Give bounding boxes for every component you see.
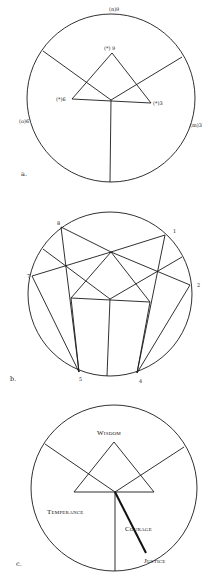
diagram-b-inner-triangle bbox=[71, 252, 150, 302]
diagram-a-spoke-bottom bbox=[110, 100, 111, 182]
point-label-7: 7 bbox=[27, 273, 30, 279]
diagram-c-justice-line bbox=[115, 492, 146, 553]
diagram-a-triangle bbox=[72, 53, 151, 103]
diagram-c: Wisdom Temperance Courage Justice c. bbox=[16, 405, 197, 571]
caption-b: b. bbox=[10, 375, 16, 383]
diagram-b-line-apex-2 bbox=[111, 252, 190, 285]
figure-canvas: (n)9 (o)6 (m)3 (*) 9 (*)6 (*)3 a. 8 1 7 … bbox=[0, 0, 208, 584]
point-label-8: 8 bbox=[57, 220, 60, 226]
diagram-b-line-7-5 bbox=[32, 276, 79, 372]
label-right-3: (*)3 bbox=[153, 100, 163, 106]
diagram-b-line-1-apex bbox=[111, 235, 165, 252]
diagram-b-line-apex-7 bbox=[32, 252, 111, 276]
diagram-b-spoke-right bbox=[110, 257, 182, 299]
virtue-temperance: Temperance bbox=[47, 508, 84, 516]
diagram-b: 8 1 7 2 5 4 b. bbox=[10, 212, 200, 384]
label-left-6: (*)6 bbox=[56, 96, 66, 102]
label-n9: (n)9 bbox=[109, 6, 119, 12]
label-o6: (o)6 bbox=[19, 118, 29, 124]
label-m3: (m)3 bbox=[190, 122, 202, 128]
diagram-b-spoke-bottom bbox=[107, 299, 110, 376]
diagram-b-line-8-apex bbox=[61, 227, 111, 252]
point-label-4: 4 bbox=[139, 378, 142, 384]
diagram-a-circle bbox=[27, 14, 195, 182]
virtue-wisdom: Wisdom bbox=[97, 429, 121, 437]
point-label-1: 1 bbox=[173, 228, 176, 234]
point-label-5: 5 bbox=[79, 376, 82, 382]
diagram-b-line-innerleft-5 bbox=[71, 298, 79, 372]
diagram-c-spoke-right bbox=[115, 447, 184, 492]
caption-c: c. bbox=[16, 560, 22, 568]
virtue-justice: Justice bbox=[144, 557, 166, 565]
virtue-courage: Courage bbox=[125, 525, 152, 533]
label-apex-9: (*) 9 bbox=[104, 45, 115, 51]
diagram-a: (n)9 (o)6 (m)3 (*) 9 (*)6 (*)3 a. bbox=[19, 6, 202, 182]
point-label-2: 2 bbox=[197, 282, 200, 288]
diagram-b-circle bbox=[28, 212, 192, 376]
diagram-c-triangle bbox=[74, 442, 154, 492]
diagram-a-spoke-right bbox=[111, 57, 182, 100]
caption-a: a. bbox=[21, 170, 27, 178]
